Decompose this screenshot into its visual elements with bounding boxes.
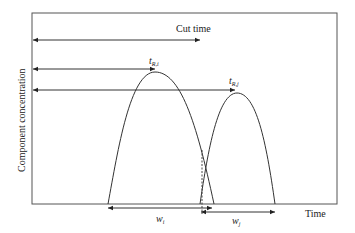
width-i-label: wi — [156, 213, 165, 225]
peak-j-curve — [200, 93, 275, 204]
width-j-label: wj — [232, 215, 241, 227]
chromatography-cut-time-diagram: Cut time tR,i tR,j wi wj Time Component … — [0, 0, 355, 233]
retention-j-label: tR,j — [229, 75, 239, 87]
retention-i-label: tR,i — [149, 55, 159, 67]
x-axis-label: Time — [305, 208, 326, 219]
cut-time-label: Cut time — [176, 23, 211, 34]
plot-frame — [32, 13, 337, 204]
y-axis-label: Component concentration — [16, 68, 27, 172]
peak-i-curve — [108, 72, 214, 204]
